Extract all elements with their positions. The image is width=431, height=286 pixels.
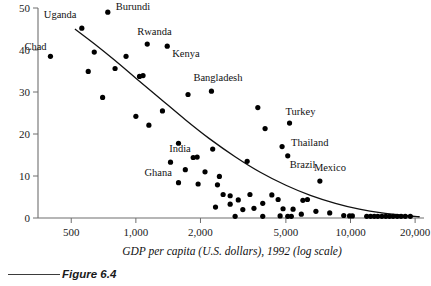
- point-label: Chad: [24, 41, 47, 52]
- data-point: [100, 95, 105, 100]
- x-axis-title: GDP per capita (U.S. dollars), 1992 (log…: [122, 245, 342, 258]
- point-labels-group: ChadUgandaBurundiRwandaKenyaBangladeshGh…: [24, 1, 346, 178]
- figure-caption-label: Figure 6.4: [62, 268, 116, 280]
- data-point: [228, 202, 233, 207]
- point-label: Uganda: [44, 9, 77, 20]
- data-point: [202, 169, 207, 174]
- x-tick-label: 2,000: [188, 226, 213, 238]
- data-point: [185, 92, 190, 97]
- data-point: [276, 197, 281, 202]
- x-tick-label: 1,000: [123, 226, 148, 238]
- data-point: [247, 192, 252, 197]
- data-point: [260, 201, 265, 206]
- data-point: [278, 213, 283, 218]
- data-point: [195, 155, 200, 160]
- point-label: Kenya: [172, 48, 200, 59]
- data-point: [92, 50, 97, 55]
- data-point: [269, 192, 274, 197]
- data-point: [289, 214, 294, 219]
- data-point: [176, 180, 181, 185]
- data-point: [236, 197, 241, 202]
- data-point: [123, 54, 128, 59]
- caption-rule: [8, 274, 60, 275]
- y-tick-label: 10: [19, 170, 31, 182]
- data-point: [133, 114, 138, 119]
- y-tick-label: 0: [25, 212, 31, 224]
- y-tick-label: 20: [19, 128, 31, 140]
- data-point: [305, 197, 310, 202]
- data-point: [262, 126, 267, 131]
- y-axis-ticks: 01020304050: [19, 2, 38, 224]
- point-label: Brazil: [290, 159, 316, 170]
- x-tick-label: 5,000: [274, 226, 299, 238]
- data-point: [285, 153, 290, 158]
- data-point: [245, 159, 250, 164]
- point-label: Ghana: [145, 167, 173, 178]
- axes-group: [38, 8, 424, 218]
- scatter-chart: 01020304050 5001,0002,0005,00010,00020,0…: [0, 0, 431, 286]
- data-point: [146, 123, 151, 128]
- data-point: [213, 204, 218, 209]
- data-point: [168, 160, 173, 165]
- data-point: [408, 214, 413, 219]
- x-axis-ticks: 5001,0002,0005,00010,00020,000: [63, 218, 431, 238]
- data-point: [165, 44, 170, 49]
- x-tick-label: 20,000: [400, 226, 431, 238]
- x-tick-label: 10,000: [335, 226, 366, 238]
- data-point: [145, 42, 150, 47]
- data-point: [279, 144, 284, 149]
- data-point: [215, 182, 220, 187]
- data-point: [140, 73, 145, 78]
- y-tick-label: 50: [19, 2, 31, 14]
- data-point: [327, 210, 332, 215]
- point-label: Turkey: [286, 106, 317, 117]
- data-point: [160, 108, 165, 113]
- data-point: [299, 212, 304, 217]
- data-point: [112, 66, 117, 71]
- data-point: [251, 206, 256, 211]
- data-point: [183, 167, 188, 172]
- data-point: [255, 105, 260, 110]
- point-label: India: [169, 143, 191, 154]
- data-point: [79, 26, 84, 31]
- data-point: [196, 181, 201, 186]
- point-label: Thailand: [291, 137, 329, 148]
- data-point: [210, 147, 215, 152]
- data-point: [209, 89, 214, 94]
- data-points-group: [48, 10, 413, 219]
- data-point: [260, 214, 265, 219]
- data-point: [217, 174, 222, 179]
- data-point: [221, 192, 226, 197]
- data-point: [240, 207, 245, 212]
- data-point: [86, 69, 91, 74]
- figure-caption-row: Figure 6.4: [0, 262, 431, 286]
- point-label: Rwanda: [137, 26, 172, 37]
- data-point: [313, 209, 318, 214]
- data-point: [280, 206, 285, 211]
- data-point: [403, 214, 408, 219]
- point-label: Mexico: [314, 162, 346, 173]
- data-point: [105, 10, 110, 15]
- data-point: [300, 198, 305, 203]
- x-tick-label: 500: [63, 226, 80, 238]
- data-point: [317, 178, 322, 183]
- point-label: Burundi: [116, 1, 151, 12]
- data-point: [287, 120, 292, 125]
- data-point: [350, 213, 355, 218]
- y-tick-label: 30: [19, 86, 31, 98]
- data-point: [48, 54, 53, 59]
- data-point: [341, 213, 346, 218]
- data-point: [228, 193, 233, 198]
- data-point: [233, 214, 238, 219]
- figure-container: 01020304050 5001,0002,0005,00010,00020,0…: [0, 0, 431, 286]
- point-label: Bangladesh: [193, 72, 243, 83]
- data-point: [290, 207, 295, 212]
